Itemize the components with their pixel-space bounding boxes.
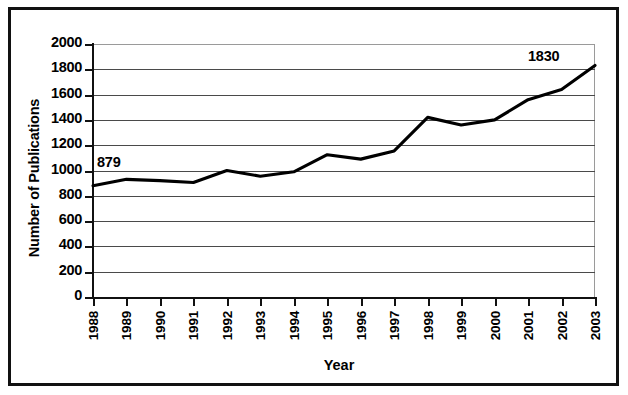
x-axis-tick-label: 1990 <box>153 311 168 340</box>
x-axis-tick-label: 1993 <box>253 311 268 340</box>
x-axis-tick-label: 1997 <box>387 311 402 340</box>
x-axis-tick <box>294 297 296 306</box>
gridline <box>93 246 595 247</box>
y-axis-tick-label: 2000 <box>22 34 82 50</box>
x-axis-tick <box>595 297 597 306</box>
gridline <box>93 69 595 70</box>
gridline <box>93 44 595 45</box>
x-axis-title: Year <box>0 357 628 373</box>
x-axis-tick <box>428 297 430 306</box>
x-axis-tick <box>562 297 564 306</box>
y-axis-title: Number of Publications <box>26 58 42 298</box>
chart-figure: 0200400600800100012001400160018002000 Nu… <box>0 0 628 395</box>
y-axis-tick <box>85 95 94 97</box>
y-axis-tick <box>85 145 94 147</box>
y-axis-tick <box>85 297 94 299</box>
x-axis-tick <box>126 297 128 306</box>
x-axis-tick <box>528 297 530 306</box>
y-axis-tick <box>85 171 94 173</box>
x-axis-tick-label: 1996 <box>354 311 369 340</box>
y-axis-tick <box>85 69 94 71</box>
gridline <box>93 272 595 273</box>
x-axis-tick-label: 2003 <box>588 311 603 340</box>
plot-area <box>93 44 595 297</box>
x-axis-tick <box>394 297 396 306</box>
data-label-first: 879 <box>97 154 121 170</box>
gridline <box>93 95 595 96</box>
x-axis-tick-label: 2002 <box>555 311 570 340</box>
x-axis-tick-label: 2000 <box>488 311 503 340</box>
y-axis-tick <box>85 246 94 248</box>
x-axis-tick <box>227 297 229 306</box>
x-axis-tick-label: 1992 <box>220 311 235 340</box>
x-axis-tick <box>495 297 497 306</box>
x-axis-tick-label: 1989 <box>119 311 134 340</box>
x-axis-tick-label: 1991 <box>186 311 201 340</box>
x-axis-line <box>92 297 596 299</box>
x-axis-tick-label: 1999 <box>454 311 469 340</box>
y-axis-tick <box>85 120 94 122</box>
x-axis-tick-label: 1988 <box>86 311 101 340</box>
data-label-last: 1830 <box>528 48 559 64</box>
y-axis-tick <box>85 196 94 198</box>
x-axis-tick <box>361 297 363 306</box>
y-axis-tick <box>85 44 94 46</box>
y-axis-tick <box>85 221 94 223</box>
gridline <box>93 171 595 172</box>
x-axis-tick <box>160 297 162 306</box>
gridline <box>93 196 595 197</box>
x-axis-tick-label: 1998 <box>421 311 436 340</box>
x-axis-tick <box>327 297 329 306</box>
x-axis-tick <box>461 297 463 306</box>
x-axis-tick-label: 2001 <box>521 311 536 340</box>
gridline <box>93 120 595 121</box>
x-axis-tick <box>260 297 262 306</box>
x-axis-tick-label: 1995 <box>320 311 335 340</box>
gridline <box>93 221 595 222</box>
x-axis-tick-label: 1994 <box>287 311 302 340</box>
gridline <box>93 145 595 146</box>
y-axis-tick <box>85 272 94 274</box>
x-axis-tick <box>193 297 195 306</box>
